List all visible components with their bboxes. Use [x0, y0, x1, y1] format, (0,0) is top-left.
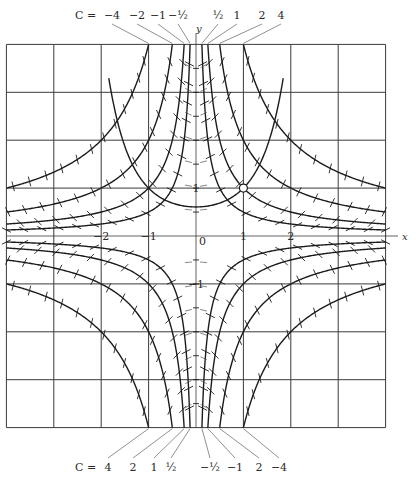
x-tick-label: 2	[287, 230, 294, 243]
slope-mark	[123, 358, 125, 368]
bottom-c-label: −½	[200, 461, 220, 474]
slope-mark	[226, 165, 233, 172]
top-c-label: 4	[278, 9, 285, 22]
leader-line	[108, 429, 149, 458]
bottom-c-prefix: C =	[75, 461, 96, 474]
leader-line	[243, 429, 279, 458]
isocline-c2	[6, 260, 172, 428]
leader-line	[171, 429, 190, 458]
leader-line	[220, 24, 262, 43]
slope-mark	[281, 283, 285, 292]
slope-mark	[266, 358, 268, 368]
slope-mark	[266, 104, 268, 114]
slope-mark	[159, 165, 166, 172]
bottom-c-label: 2	[256, 461, 263, 474]
slope-mark	[200, 262, 207, 263]
slope-mark	[185, 333, 192, 335]
slope-mark	[200, 209, 207, 210]
isocline-c-2	[220, 260, 386, 428]
top-c-label: −2	[129, 9, 145, 22]
bottom-c-label: −1	[227, 461, 243, 474]
slope-mark	[200, 161, 207, 163]
leader-line	[133, 429, 172, 458]
slope-mark	[227, 202, 236, 207]
x-tick-label: −1	[140, 230, 156, 243]
y-tick-label: −1	[188, 278, 204, 291]
isocline-c-0.5	[6, 44, 190, 230]
top-c-label: −½	[168, 9, 188, 22]
bottom-c-label: ½	[166, 461, 177, 474]
isocline-c-1	[6, 44, 184, 224]
isocline-c4	[243, 44, 385, 188]
top-c-label: 2	[259, 9, 266, 22]
slope-mark	[125, 251, 134, 256]
leader-line	[243, 24, 281, 43]
leader-line	[112, 24, 149, 43]
slope-mark	[121, 170, 125, 179]
isocline-c0.5	[202, 44, 386, 230]
bottom-c-labels: 421½−½−12−4	[105, 461, 288, 474]
axis-tick-labels: −2−1121−1	[93, 182, 294, 291]
leader-line	[158, 24, 184, 43]
slope-mark	[255, 306, 259, 315]
slope-mark	[165, 148, 172, 155]
slope-mark	[156, 266, 165, 271]
slope-mark	[264, 264, 271, 271]
origin-label: 0	[199, 235, 206, 248]
leader-line	[220, 429, 259, 458]
top-c-label: ½	[213, 9, 224, 22]
slope-mark	[185, 262, 192, 263]
slope-mark	[258, 251, 267, 256]
slope-mark	[125, 217, 134, 222]
slope-mark	[258, 217, 267, 222]
leader-line	[202, 24, 218, 43]
y-axis-label: y	[195, 23, 202, 34]
slope-mark	[200, 185, 207, 186]
slope-mark	[200, 137, 207, 139]
slope-mark	[185, 185, 192, 186]
isocline-c-4	[243, 284, 385, 428]
slope-mark	[165, 316, 172, 323]
top-c-labels: −4−2−1−½½124	[104, 9, 285, 22]
top-c-prefix: C =	[75, 9, 96, 22]
bottom-c-label: 4	[105, 461, 112, 474]
isocline-c-4	[6, 44, 148, 188]
slope-mark	[264, 201, 271, 208]
top-c-label: 1	[234, 9, 241, 22]
slope-mark	[267, 170, 271, 179]
slope-mark	[133, 306, 137, 315]
marked-point-icon	[239, 184, 247, 192]
bottom-c-label: 1	[151, 461, 158, 474]
isocline-c-0.5	[202, 242, 386, 428]
slope-mark	[121, 293, 125, 302]
slope-mark	[123, 104, 125, 114]
isocline-c1	[6, 248, 184, 428]
isocline-c0.5	[6, 242, 190, 428]
isocline-c-1	[208, 248, 386, 428]
slope-mark	[185, 209, 192, 210]
axes	[6, 34, 398, 428]
slope-mark	[281, 180, 285, 189]
slope-mark	[200, 309, 207, 311]
slope-mark	[227, 266, 236, 271]
slope-mark	[185, 161, 192, 163]
slope-mark	[106, 283, 110, 292]
slope-mark	[185, 309, 192, 311]
slope-mark	[121, 201, 128, 208]
slope-mark	[159, 300, 166, 307]
leader-line	[154, 429, 184, 458]
leader-line	[202, 429, 210, 458]
top-c-label: −4	[104, 9, 120, 22]
slope-mark	[185, 137, 192, 139]
leader-line	[208, 429, 235, 458]
leader-line	[137, 24, 172, 43]
slope-mark	[220, 316, 227, 323]
slope-mark	[226, 300, 233, 307]
leader-line	[208, 24, 237, 43]
isocline-diagram: C = −4−2−1−½½124 C = 421½−½−12−4 y x 0 −…	[0, 0, 416, 480]
slope-mark	[156, 202, 165, 207]
slope-mark	[220, 148, 227, 155]
bottom-c-label: 2	[130, 461, 137, 474]
slope-mark	[106, 180, 110, 189]
top-c-label: −1	[150, 9, 166, 22]
